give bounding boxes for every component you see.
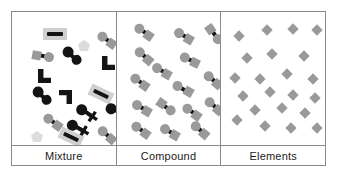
- molecule-diamond-circle: [170, 77, 196, 99]
- atom-diamond: [289, 25, 300, 36]
- molecule-circle-diamond: [171, 25, 197, 47]
- diamond-icon: [250, 104, 261, 115]
- atom-diamond: [263, 26, 274, 37]
- diamond-icon: [232, 114, 243, 125]
- molecule-plate-bar: [43, 28, 67, 40]
- diamond-icon: [282, 68, 293, 79]
- panel-row: [12, 12, 325, 145]
- diamond-icon: [310, 92, 321, 103]
- panel-compound: [117, 12, 222, 145]
- diamond-icon: [234, 30, 245, 41]
- atom-diamond: [289, 91, 300, 102]
- atom-diamond: [239, 92, 250, 103]
- molecule-circle-diamond: [200, 68, 221, 92]
- atom-diamond: [300, 52, 311, 63]
- atom-diamond: [301, 109, 312, 120]
- atom-diamond-icon: [31, 50, 41, 60]
- atom-diamond: [243, 54, 254, 65]
- molecule-circle-diamond: [129, 97, 155, 119]
- molecule-circle-diamond: [153, 95, 178, 118]
- molecule-circle-diamond: [177, 50, 202, 71]
- diamond-icon: [230, 72, 241, 83]
- atom-diamond: [233, 116, 244, 127]
- panel-elements: [221, 12, 325, 145]
- atom-diamond: [268, 50, 279, 61]
- atom-diamond: [261, 122, 272, 133]
- diamond-icon: [238, 90, 249, 101]
- diamond-icon: [288, 89, 299, 100]
- atom-diamond: [309, 75, 320, 86]
- atom-diamond: [235, 32, 246, 43]
- ell-icon: [102, 56, 115, 70]
- molecule-circle-diamond: [94, 29, 116, 52]
- atom-diamond: [251, 106, 262, 117]
- atom-diamond: [311, 94, 322, 105]
- molecule-circle-diamond: [94, 123, 116, 145]
- label-row: Mixture Compound Elements: [12, 145, 325, 166]
- mixture-compound-elements-figure: Mixture Compound Elements: [11, 11, 326, 166]
- molecule-circle-diamond: [131, 21, 156, 44]
- molecule-circle-diamond: [157, 121, 183, 143]
- diamond-icon: [267, 48, 278, 59]
- atom-pentagon: [78, 40, 90, 52]
- diamond-icon: [299, 50, 310, 61]
- molecule-circle-circle: [30, 84, 55, 107]
- molecule-circle-diamond: [187, 118, 212, 142]
- atom-ell: [102, 56, 115, 70]
- label-elements: Elements: [221, 146, 325, 166]
- atom-circle-icon: [43, 51, 55, 63]
- diamond-icon: [312, 24, 323, 35]
- atom-diamond: [266, 88, 277, 99]
- label-compound: Compound: [117, 146, 222, 166]
- atom-diamond: [231, 74, 242, 85]
- diamond-icon: [312, 122, 323, 133]
- diamond-icon: [288, 23, 299, 34]
- diamond-icon: [255, 73, 266, 84]
- atom-diamond: [313, 26, 324, 37]
- label-mixture: Mixture: [12, 146, 117, 166]
- atom-diamond: [278, 104, 289, 115]
- atom-diamond: [256, 75, 267, 86]
- pentagon-icon: [78, 40, 90, 51]
- pentagon-icon: [31, 131, 43, 142]
- diamond-icon: [300, 107, 311, 118]
- diamond-icon: [265, 86, 276, 97]
- atom-diamond: [313, 124, 324, 135]
- atom-ell: [59, 90, 72, 104]
- molecule-circle-diamond: [149, 60, 175, 82]
- atom-diamond: [283, 70, 294, 81]
- ell-icon: [59, 90, 72, 104]
- atom-ell: [38, 69, 51, 83]
- diamond-icon: [262, 24, 273, 35]
- bond-icon: [47, 32, 63, 36]
- atom-pentagon: [31, 131, 43, 143]
- diamond-icon: [242, 52, 253, 63]
- molecule-cross-circle: [103, 101, 116, 123]
- molecule-circle-diamond: [201, 94, 221, 118]
- atom-diamond: [287, 124, 298, 135]
- molecule-circle-diamond: [128, 119, 153, 142]
- molecule-diamond-circle: [31, 48, 55, 65]
- diamond-icon: [308, 73, 319, 84]
- panel-mixture: [12, 12, 117, 145]
- molecule-diamond-circle: [202, 22, 221, 47]
- diamond-icon: [260, 120, 271, 131]
- atom-circle-icon: [104, 101, 117, 116]
- ell-icon: [38, 69, 51, 83]
- diamond-icon: [286, 122, 297, 133]
- molecule-circle-diamond: [127, 71, 152, 94]
- diamond-icon: [277, 102, 288, 113]
